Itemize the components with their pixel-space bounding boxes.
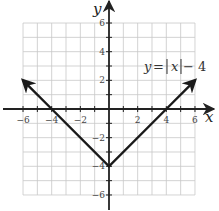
y-tick-label: −2 bbox=[92, 133, 105, 143]
y-tick-label: 2 bbox=[99, 75, 105, 85]
x-tick-label: 4 bbox=[163, 115, 169, 125]
x-tick-label: 2 bbox=[135, 115, 141, 125]
equation-x: x bbox=[171, 59, 179, 74]
x-tick-label: −4 bbox=[45, 115, 59, 125]
x-axis-label: x bbox=[205, 108, 214, 126]
equation-minus-4: − 4 bbox=[183, 59, 206, 74]
x-tick-label: −6 bbox=[16, 115, 30, 125]
x-tick-label: −2 bbox=[74, 115, 87, 125]
equation-label: y = x − 4 bbox=[143, 59, 206, 74]
y-tick-label: 6 bbox=[99, 18, 105, 28]
axes bbox=[3, 1, 214, 210]
y-axis-label: y bbox=[92, 0, 102, 18]
y-tick-label: −4 bbox=[92, 161, 106, 171]
x-tick-label: 6 bbox=[192, 115, 198, 125]
y-tick-label: −6 bbox=[92, 190, 106, 200]
equation-equals: = bbox=[153, 59, 164, 74]
absolute-value-graph: −6−4−2246642−2−4−6 x y y = x − 4 bbox=[0, 0, 219, 211]
equation-y: y bbox=[143, 59, 152, 74]
y-tick-label: 4 bbox=[99, 47, 105, 57]
